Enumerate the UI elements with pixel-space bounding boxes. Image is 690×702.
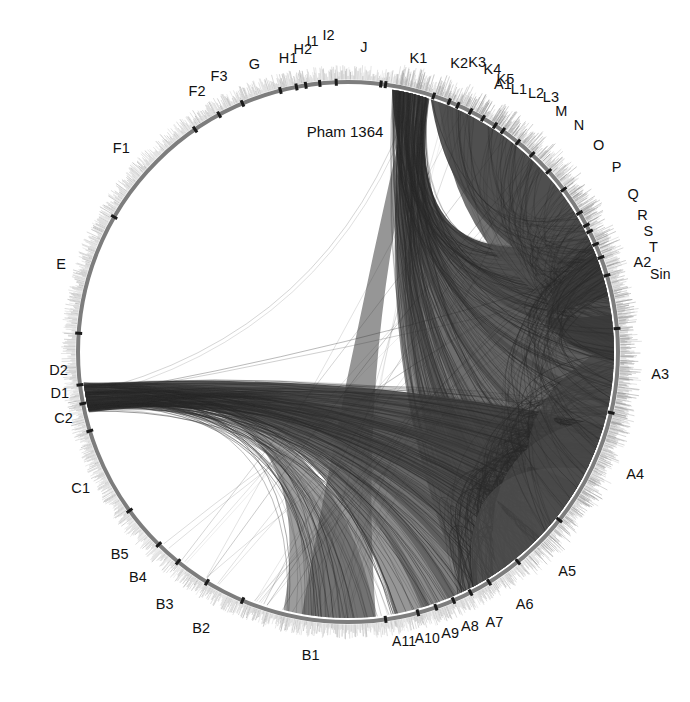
segment-label-k1: K1 xyxy=(410,51,428,66)
segment-label-f1: F1 xyxy=(113,141,130,156)
segment-label-a10: A10 xyxy=(415,631,440,645)
segment-label-e: E xyxy=(56,257,66,272)
segment-separator xyxy=(385,616,386,623)
segment-label-a8: A8 xyxy=(461,619,479,634)
segment-label-k2: K2 xyxy=(450,55,468,70)
segment-separator xyxy=(380,81,381,88)
segment-separator xyxy=(433,93,435,100)
segment-label-b3: B3 xyxy=(156,597,174,612)
segment-label-l1: L1 xyxy=(511,81,527,96)
segment-label-c2: C2 xyxy=(54,410,73,425)
segment-label-a3: A3 xyxy=(651,367,669,382)
segment-separator xyxy=(604,274,611,276)
segment-label-q: Q xyxy=(627,187,638,202)
segment-label-b5: B5 xyxy=(111,547,129,562)
segment-label-a11: A11 xyxy=(392,634,416,648)
segment-separator xyxy=(80,403,87,404)
segment-label-j: J xyxy=(360,40,367,55)
segment-label-sin: Sin xyxy=(650,267,671,281)
chord-diagram-figure xyxy=(0,0,690,702)
segment-separator xyxy=(296,84,297,91)
segment-label-i2: I2 xyxy=(322,27,334,42)
segment-label-p: P xyxy=(612,160,622,175)
segment-separator xyxy=(280,87,282,94)
segment-label-d1: D1 xyxy=(50,385,69,400)
segment-label-n: N xyxy=(574,118,585,133)
segment-separator xyxy=(417,609,419,616)
segment-label-g: G xyxy=(249,57,260,72)
segment-label-i1: I1 xyxy=(306,34,318,49)
segment-label-r: R xyxy=(637,207,648,222)
segment-label-t: T xyxy=(649,240,658,255)
segment-label-a5: A5 xyxy=(558,564,576,579)
segment-label-o: O xyxy=(593,138,604,153)
segment-separator xyxy=(613,328,620,329)
segment-label-b4: B4 xyxy=(129,570,147,585)
segment-label-s: S xyxy=(644,223,654,238)
segment-separator xyxy=(319,80,320,87)
segment-separator xyxy=(86,430,93,432)
segment-label-b1: B1 xyxy=(302,647,320,662)
segment-separator xyxy=(305,82,306,89)
segment-label-a9: A9 xyxy=(441,626,459,641)
segment-label-d2: D2 xyxy=(49,362,68,377)
segment-label-a6: A6 xyxy=(516,597,534,612)
segment-label-f2: F2 xyxy=(188,83,205,98)
segment-label-a7: A7 xyxy=(486,615,504,630)
segment-label-m: M xyxy=(555,104,567,119)
segment-label-c1: C1 xyxy=(71,481,90,496)
segment-label-b2: B2 xyxy=(192,621,210,636)
segment-separator xyxy=(608,412,615,414)
segment-label-a4: A4 xyxy=(626,467,644,482)
segment-label-f3: F3 xyxy=(211,68,228,83)
plot-title: Pham 1364 xyxy=(307,123,384,140)
segment-label-a2: A2 xyxy=(634,255,652,270)
segment-separator xyxy=(385,81,386,88)
segment-separator xyxy=(77,384,84,385)
